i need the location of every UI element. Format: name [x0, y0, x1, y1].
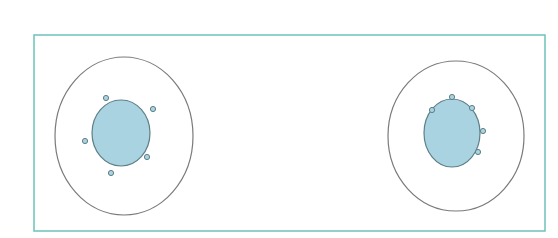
left-cell: [55, 57, 193, 215]
right-particle-dot: [475, 149, 480, 154]
left-particle-dot: [103, 95, 108, 100]
right-particle-dot: [429, 107, 434, 112]
right-particle-dot: [449, 94, 454, 99]
left-particle-dot: [144, 154, 149, 159]
diagram-canvas: [0, 0, 558, 238]
left-cell-nucleus: [92, 100, 150, 166]
left-particle-dot: [150, 106, 155, 111]
right-particle-dot: [480, 128, 485, 133]
right-cell: [388, 61, 524, 211]
right-particle-dot: [469, 105, 474, 110]
left-particle-dot: [108, 170, 113, 175]
left-particle-dot: [82, 138, 87, 143]
